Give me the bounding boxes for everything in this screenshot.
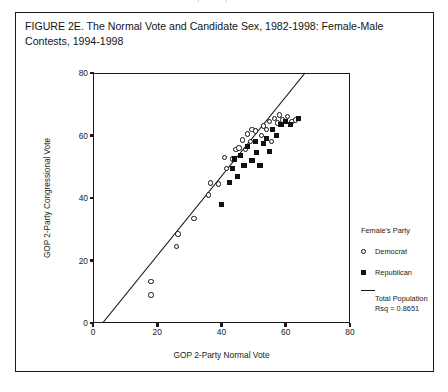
data-point-democrat [264, 127, 269, 132]
data-point-republican [270, 127, 275, 132]
x-tick-label: 40 [210, 327, 234, 337]
y-tick-label: 20 [58, 256, 88, 266]
plot-area: GOP 2-Party Congressional Vote GOP 2-Par… [16, 13, 435, 373]
x-tick-mark [92, 323, 95, 327]
line-icon [361, 290, 375, 292]
data-point-republican [232, 156, 237, 161]
top-cut-text: ··· ········· ···········, ·······, ··· … [118, 0, 262, 3]
regression-line [93, 73, 350, 323]
x-tick-label: 0 [81, 327, 105, 337]
data-point-republican [227, 180, 232, 185]
x-tick-label: 20 [145, 327, 169, 337]
legend-item-fit-line[interactable] [361, 290, 435, 292]
data-point-democrat [148, 292, 153, 297]
data-point-democrat [175, 231, 180, 236]
data-point-republican [241, 163, 246, 168]
y-tick-label: 60 [58, 131, 88, 141]
legend-rsq-label: Rsq = 0.8651 [375, 304, 435, 314]
data-point-democrat [253, 128, 258, 133]
data-point-democrat [240, 137, 245, 142]
data-point-republican [235, 174, 240, 179]
axes-frame: GOP 2-Party Congressional Vote GOP 2-Par… [93, 73, 350, 323]
data-point-republican [288, 122, 293, 127]
open-circle-icon [361, 249, 375, 254]
data-point-democrat [208, 180, 213, 185]
y-axis-label: GOP 2-Party Congressional Vote [43, 73, 52, 323]
filled-square-icon [361, 270, 375, 275]
x-axis-label: GOP 2-Party Normal Vote [93, 350, 350, 360]
legend-item-democrat-label: Democrat [375, 247, 407, 257]
legend-item-democrat[interactable]: Democrat [361, 247, 435, 257]
data-point-republican [249, 158, 254, 163]
data-point-republican [254, 150, 259, 155]
x-tick-mark [284, 323, 287, 327]
figure-box: FIGURE 2E. The Normal Vote and Candidate… [15, 12, 434, 372]
data-point-democrat [206, 192, 211, 197]
data-point-republican [264, 136, 269, 141]
y-tick-label: 40 [58, 193, 88, 203]
data-point-republican [230, 166, 235, 171]
data-point-democrat [148, 279, 153, 284]
legend-fit-label: Total Population [375, 294, 435, 304]
data-point-democrat [224, 166, 229, 171]
data-point-democrat [245, 131, 250, 136]
x-tick-mark [220, 323, 223, 327]
top-cut-text-strip: ··· ········· ···········, ·······, ··· … [0, 0, 448, 10]
data-point-republican [219, 202, 224, 207]
y-tick-label: 80 [58, 68, 88, 78]
data-point-republican [274, 133, 279, 138]
data-point-republican [296, 116, 301, 121]
x-tick-mark [156, 323, 159, 327]
data-point-democrat [216, 181, 221, 186]
legend-item-republican-label: Republican [375, 268, 412, 278]
data-point-republican [261, 141, 266, 146]
legend-title: Female's Party [361, 226, 435, 236]
data-point-republican [245, 144, 250, 149]
data-point-republican [238, 153, 243, 158]
legend-item-republican[interactable]: Republican [361, 268, 435, 278]
data-point-republican [253, 139, 258, 144]
x-tick-label: 80 [338, 327, 362, 337]
data-point-republican [267, 149, 272, 154]
legend: Female's Party Democrat Republican Total… [361, 226, 435, 314]
data-point-democrat [236, 145, 241, 150]
x-tick-mark [349, 323, 352, 327]
x-tick-label: 60 [274, 327, 298, 337]
data-point-republican [257, 163, 262, 168]
data-point-democrat [191, 216, 196, 221]
